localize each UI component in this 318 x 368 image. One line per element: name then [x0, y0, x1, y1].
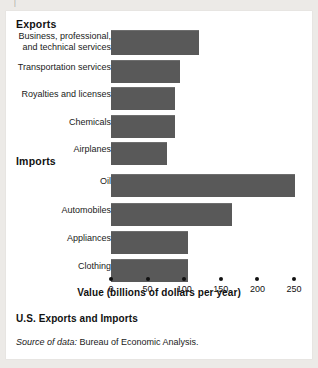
bar — [111, 115, 175, 138]
bar — [111, 142, 167, 165]
bar — [111, 30, 199, 55]
bar-label: Airplanes — [0, 144, 111, 155]
bar-label: Appliances — [0, 233, 111, 244]
source-label: Source of data: — [16, 337, 77, 347]
bar-label: Oil — [0, 176, 111, 187]
bar — [111, 87, 175, 110]
source-text: Bureau of Economic Analysis. — [77, 337, 199, 347]
bar — [111, 60, 180, 83]
figure-title: U.S. Exports and Imports — [16, 313, 306, 324]
caption-block: U.S. Exports and Imports Source of data:… — [16, 313, 306, 347]
group-header-imports: Imports — [16, 155, 56, 167]
bar-label: Clothing — [0, 261, 111, 272]
group-header-exports: Exports — [16, 18, 57, 30]
axis-tick-dot — [292, 277, 296, 281]
bar — [111, 203, 232, 226]
page-top-strip: | — [0, 0, 318, 11]
bar — [111, 174, 295, 197]
bar-label: Transportation services — [0, 62, 111, 73]
bar-label: Chemicals — [0, 117, 111, 128]
bar-label: Automobiles — [0, 205, 111, 216]
axis-tick-dot — [255, 277, 259, 281]
bar-chart: Exports Imports Business, professional, … — [6, 11, 312, 301]
source-line: Source of data: Bureau of Economic Analy… — [16, 337, 306, 347]
axis-tick-dot — [182, 277, 186, 281]
figure-panel: Exports Imports Business, professional, … — [6, 11, 312, 359]
axis-tick-dot — [109, 277, 113, 281]
x-axis-title: Value (billions of dollars per year) — [6, 287, 312, 298]
axis-tick-dot — [219, 277, 223, 281]
stray-glyph: | — [14, 0, 16, 7]
bar — [111, 231, 188, 254]
bar-label: Royalties and licenses — [0, 89, 111, 100]
bar-label: Business, professional, and technical se… — [0, 31, 111, 52]
axis-tick-dot — [146, 277, 150, 281]
